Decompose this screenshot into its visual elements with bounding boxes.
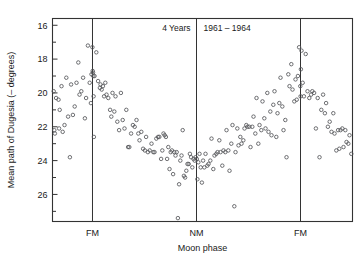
data-point	[255, 96, 259, 100]
data-point	[180, 154, 184, 158]
data-point	[150, 142, 154, 146]
data-point	[342, 145, 346, 149]
x-axis-tick-labels: FMNMFM	[86, 228, 307, 238]
data-point	[84, 96, 88, 100]
data-point	[326, 125, 330, 128]
data-point	[279, 76, 283, 80]
data-point	[221, 164, 225, 168]
data-point	[61, 130, 64, 134]
data-point	[266, 91, 270, 95]
data-point	[63, 123, 67, 127]
data-point	[175, 150, 179, 154]
y-axis-ticks	[53, 25, 58, 211]
data-point	[257, 142, 261, 146]
data-point	[285, 155, 289, 159]
data-point	[181, 128, 185, 132]
data-point	[275, 135, 279, 139]
data-point	[242, 139, 246, 143]
y-tick-label-26: 26	[37, 190, 47, 200]
data-point	[199, 166, 203, 170]
data-point	[73, 105, 77, 109]
data-point	[96, 79, 100, 83]
data-point	[95, 51, 99, 55]
data-point	[111, 91, 115, 95]
data-point	[177, 183, 181, 187]
data-point	[176, 216, 180, 220]
data-point	[191, 166, 195, 170]
y-axis-label: Mean path of Dugesia (– degrees)	[6, 52, 16, 189]
data-point	[233, 205, 237, 209]
data-point	[65, 76, 69, 80]
data-point	[58, 108, 62, 112]
data-point	[276, 111, 280, 115]
data-point	[260, 128, 264, 132]
data-point	[308, 96, 312, 100]
data-point	[267, 130, 271, 134]
data-points	[52, 44, 353, 220]
figure-container: 161820222426 FMNMFM 4 Years 1961 – 1964 …	[0, 0, 361, 259]
chart-title-right: 1961 – 1964	[204, 23, 252, 33]
data-point	[171, 172, 175, 176]
data-point	[284, 118, 288, 122]
y-tick-label-18: 18	[37, 54, 47, 64]
data-point	[323, 111, 327, 115]
data-point	[53, 132, 57, 136]
data-point	[210, 137, 214, 141]
x-axis-label: Moon phase	[178, 243, 228, 253]
data-point	[135, 118, 139, 122]
data-point	[168, 167, 172, 171]
data-point	[338, 147, 342, 151]
data-point	[161, 149, 165, 153]
data-point	[290, 62, 294, 66]
data-point	[344, 128, 348, 132]
data-point	[264, 127, 268, 131]
data-point	[201, 159, 205, 163]
data-point	[228, 169, 232, 173]
data-point	[86, 44, 90, 48]
data-point	[281, 105, 285, 109]
data-point	[121, 118, 125, 122]
data-point	[212, 167, 216, 171]
data-point	[110, 115, 114, 119]
data-point	[117, 128, 121, 132]
data-point	[282, 128, 286, 132]
data-point	[75, 81, 79, 85]
data-point	[138, 139, 142, 143]
data-point	[108, 108, 112, 112]
data-point	[301, 81, 305, 85]
data-point	[231, 123, 235, 127]
data-point	[240, 142, 244, 146]
y-tick-label-16: 16	[37, 21, 47, 31]
data-point	[273, 89, 277, 93]
data-point	[234, 150, 238, 154]
data-point	[53, 128, 57, 132]
data-point	[269, 110, 273, 114]
data-point	[66, 115, 70, 119]
data-point	[239, 135, 243, 139]
data-point	[200, 181, 204, 185]
data-point	[129, 132, 133, 136]
data-point	[328, 120, 332, 124]
data-point	[167, 145, 171, 149]
y-tick-label-22: 22	[37, 122, 47, 132]
data-point	[291, 88, 295, 92]
data-point	[119, 91, 123, 95]
data-point	[333, 132, 337, 136]
data-point	[227, 149, 231, 153]
data-point	[60, 84, 64, 88]
data-point	[254, 132, 257, 136]
data-point	[316, 96, 320, 100]
data-point	[77, 61, 81, 64]
data-point	[125, 108, 129, 112]
data-point	[306, 89, 310, 93]
y-axis-tick-labels: 161820222426	[37, 21, 47, 200]
data-point	[236, 127, 240, 131]
data-point	[318, 155, 322, 159]
data-point	[185, 169, 189, 173]
data-point	[258, 123, 262, 127]
data-point	[225, 128, 229, 132]
data-point	[249, 145, 253, 149]
data-point	[324, 101, 328, 105]
scatter-plot: 161820222426 FMNMFM 4 Years 1961 – 1964 …	[0, 0, 361, 259]
data-point	[320, 108, 324, 112]
